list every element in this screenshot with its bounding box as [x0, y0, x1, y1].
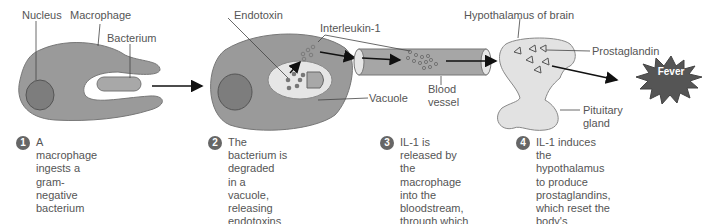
hypothalamus-and-pituitary	[498, 18, 590, 130]
step-description: The bacterium is degraded in a vacuole, …	[228, 136, 289, 224]
step-number-badge: 2	[208, 136, 222, 150]
label-macrophage: Macrophage	[70, 9, 131, 22]
step-description: A macrophage ingests a gram-negative bac…	[36, 136, 97, 215]
step-number-badge: 3	[380, 136, 394, 150]
fever-starburst	[636, 56, 702, 104]
label-blood-vessel: Blood vessel	[428, 83, 459, 109]
step-number-badge: 1	[16, 136, 30, 150]
label-fever: Fever	[646, 66, 696, 77]
step-description: IL-1 induces the hypothalamus to produce…	[536, 136, 611, 224]
step-description: IL-1 is released by the macrophage into …	[400, 136, 469, 224]
bacterium	[97, 77, 141, 91]
label-endotoxin: Endotoxin	[234, 9, 283, 22]
step-number-badge: 4	[516, 136, 530, 150]
label-interleukin-1: Interleukin-1	[320, 22, 381, 35]
label-hypothalamus: Hypothalamus of brain	[464, 9, 574, 22]
label-vacuole: Vacuole	[369, 92, 408, 105]
nucleus	[26, 80, 54, 110]
label-nucleus: Nucleus	[22, 9, 62, 22]
label-prostaglandin: Prostaglandin	[592, 45, 659, 58]
label-pituitary-gland: Pituitary gland	[583, 104, 623, 130]
label-bacterium: Bacterium	[107, 32, 157, 45]
